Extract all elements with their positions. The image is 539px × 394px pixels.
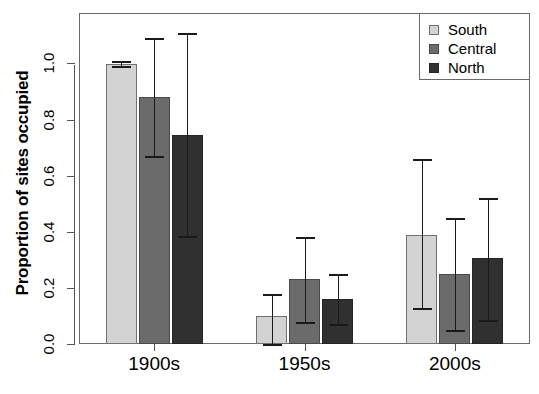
y-axis-tick-label: 0.2 [41, 271, 57, 305]
error-cap-upper [263, 294, 282, 296]
error-cap-lower [479, 320, 498, 322]
error-bar-central-2000s [455, 218, 456, 330]
y-axis-tick-label: 0.8 [41, 103, 57, 137]
bar-south-1900s [106, 64, 137, 345]
error-cap-upper [112, 61, 131, 63]
y-axis-title: Proportion of sites occupied [12, 13, 34, 353]
x-axis-tick [455, 344, 456, 351]
figure-caption [60, 386, 530, 394]
error-cap-lower [413, 308, 432, 310]
legend-item-central: Central [429, 39, 529, 58]
error-bar-north-2000s [488, 198, 489, 320]
y-axis-tick-label: 0.0 [41, 327, 57, 361]
legend-label: Central [448, 39, 496, 58]
legend-swatch-icon [429, 63, 439, 73]
x-axis-tick [154, 344, 155, 351]
y-axis-tick [67, 176, 75, 177]
y-axis-tick [67, 232, 75, 233]
legend-swatch-icon [429, 44, 439, 54]
error-cap-upper [413, 159, 432, 161]
y-axis-tick [67, 63, 75, 64]
legend-item-north: North [429, 58, 529, 77]
error-bar-central-1950s [305, 237, 306, 321]
legend-swatch-icon [429, 25, 439, 35]
error-cap-upper [296, 237, 315, 239]
bar-chart-figure: Proportion of sites occupied 0.00.20.40.… [0, 0, 539, 394]
error-cap-lower [296, 322, 315, 324]
error-cap-lower [112, 66, 131, 68]
error-cap-lower [145, 156, 164, 158]
y-axis-line [74, 65, 75, 344]
error-cap-lower [178, 236, 197, 238]
error-bar-north-1900s [187, 33, 188, 236]
error-cap-upper [479, 198, 498, 200]
x-axis-tick-label-2000s: 2000s [400, 352, 510, 376]
y-axis-tick [67, 288, 75, 289]
error-bar-south-1950s [272, 294, 273, 344]
error-cap-lower [446, 330, 465, 332]
error-bar-central-1900s [154, 38, 155, 156]
error-cap-upper [446, 218, 465, 220]
legend: SouthCentralNorth [419, 13, 530, 80]
legend-label: North [448, 58, 485, 77]
y-axis-tick [67, 120, 75, 121]
legend-label: South [448, 20, 487, 39]
error-cap-upper [145, 38, 164, 40]
y-axis-tick-label: 0.4 [41, 215, 57, 249]
x-axis-tick-label-1950s: 1950s [250, 352, 360, 376]
x-axis-tick [305, 344, 306, 351]
error-cap-lower [263, 344, 282, 346]
error-bar-south-2000s [422, 159, 423, 308]
y-axis-tick [67, 344, 75, 345]
y-axis-tick-label: 1.0 [41, 46, 57, 80]
error-cap-upper [178, 33, 197, 35]
legend-item-south: South [429, 20, 529, 39]
y-axis-tick-label: 0.6 [41, 159, 57, 193]
error-cap-lower [329, 324, 348, 326]
error-cap-upper [329, 274, 348, 276]
x-axis-tick-label-1900s: 1900s [99, 352, 209, 376]
error-bar-north-1950s [338, 274, 339, 324]
